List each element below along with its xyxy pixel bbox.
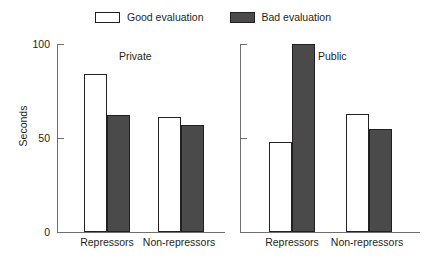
bar-group-public-repressors bbox=[269, 44, 315, 232]
bar-chart-figure: Good evaluation Bad evaluation Seconds 1… bbox=[0, 0, 426, 269]
bar-private-repressors-good bbox=[84, 74, 107, 232]
bar-private-nonrepressors-good bbox=[158, 117, 181, 232]
x-label-public-nonrepressors: Non-repressors bbox=[311, 236, 423, 248]
y-tick-label-0: 0 bbox=[44, 227, 50, 238]
legend-entry-bad-evaluation: Bad evaluation bbox=[230, 12, 331, 23]
bar-groups-public: Repressors Non-repressors bbox=[241, 44, 420, 232]
bar-public-repressors-good bbox=[269, 142, 292, 232]
legend-swatch-good-icon bbox=[95, 12, 120, 23]
bar-groups-private: Repressors Non-repressors bbox=[58, 44, 225, 232]
bar-public-nonrepressors-good bbox=[346, 114, 369, 232]
legend-swatch-bad-icon bbox=[230, 12, 255, 23]
y-tick-label-50: 50 bbox=[38, 133, 50, 144]
legend-entry-good-evaluation: Good evaluation bbox=[95, 12, 203, 23]
panel-public: Public Repressors Non-repressors bbox=[240, 44, 420, 232]
y-tick-label-100: 100 bbox=[32, 39, 50, 50]
x-label-private-nonrepressors: Non-repressors bbox=[124, 236, 234, 248]
bar-private-nonrepressors-bad bbox=[181, 125, 204, 232]
bar-public-nonrepressors-bad bbox=[369, 129, 392, 232]
y-axis-title: Seconds bbox=[17, 86, 29, 166]
legend-label-bad: Bad evaluation bbox=[262, 12, 331, 23]
bar-group-private-nonrepressors bbox=[158, 44, 204, 232]
legend-label-good: Good evaluation bbox=[127, 12, 203, 23]
chart-legend: Good evaluation Bad evaluation bbox=[0, 12, 426, 23]
bar-public-repressors-bad bbox=[292, 44, 315, 232]
bar-group-public-nonrepressors bbox=[346, 44, 392, 232]
bar-private-repressors-bad bbox=[107, 115, 130, 232]
panel-private: 100 50 0 Private Repressors Non-represso… bbox=[57, 44, 225, 232]
bar-group-private-repressors bbox=[84, 44, 130, 232]
